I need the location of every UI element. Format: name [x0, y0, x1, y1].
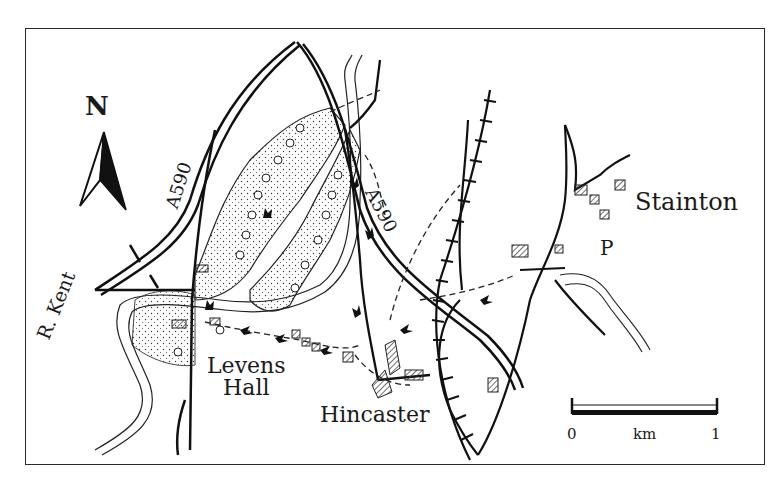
- scale-label-start: 0: [567, 425, 577, 443]
- north-arrow-icon: [80, 132, 126, 210]
- parking-label: P: [600, 238, 613, 258]
- place-label-stainton: Stainton: [635, 190, 738, 214]
- place-label-levens-line1: Levens: [207, 355, 286, 377]
- stream: [560, 274, 650, 352]
- railway-line: [432, 90, 496, 460]
- place-label-levens-hall: Levens Hall: [207, 355, 286, 399]
- north-label: N: [85, 93, 109, 119]
- scale-label-end: 1: [711, 425, 721, 443]
- place-label-levens-line2: Hall: [207, 377, 286, 399]
- scale-label-unit: km: [633, 425, 656, 443]
- place-label-hincaster: Hincaster: [320, 404, 430, 426]
- scale-bar: [572, 398, 717, 415]
